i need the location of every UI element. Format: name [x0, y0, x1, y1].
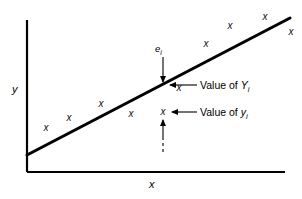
residual-label: ei — [155, 44, 162, 56]
data-point-4: x — [161, 107, 166, 117]
regression-line — [27, 18, 290, 155]
y-axis-label: y — [12, 84, 18, 95]
fitted-value-symbol: Y — [241, 79, 248, 91]
figure-canvas — [0, 0, 302, 199]
observed-value-prefix: Value of — [200, 106, 241, 118]
fitted-value-label: Value of Yi — [200, 80, 249, 94]
observed-value-label: Value of yi — [200, 107, 248, 121]
data-point-3: x — [129, 109, 134, 119]
data-point-7: x — [228, 21, 233, 31]
fitted-value-subscript: i — [248, 85, 250, 94]
fitted-value-prefix: Value of — [200, 79, 241, 91]
data-point-9: x — [289, 27, 294, 37]
data-point-8: x — [263, 12, 268, 22]
data-point-6: x — [204, 39, 209, 49]
x-axis-label: x — [149, 179, 155, 190]
residual-subscript: i — [160, 49, 162, 56]
observed-value-subscript: i — [246, 112, 248, 121]
data-point-1: x — [67, 113, 72, 123]
data-point-5: x — [177, 83, 182, 93]
data-point-0: x — [44, 123, 49, 133]
data-point-2: x — [99, 99, 104, 109]
regression-diagram: y x ei Value of Yi Value of yi xxxxxxxxx… — [0, 0, 302, 199]
